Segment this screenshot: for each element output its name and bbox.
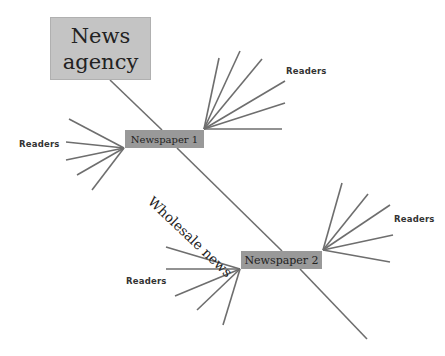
np1-right-reader-line: [204, 81, 285, 129]
newspaper-2-node: Newspaper 2: [241, 251, 322, 269]
news-agency-label-line2: agency: [63, 49, 139, 75]
agency-to-np1-line: [110, 80, 162, 130]
np2-right-reader-line: [323, 250, 390, 262]
news-agency-node: News agency: [50, 17, 151, 80]
newspaper-1-label: Newspaper 1: [131, 134, 198, 145]
readers-label-np2-right: Readers: [394, 214, 435, 224]
newspaper-2-label: Newspaper 2: [244, 254, 318, 267]
news-agency-label-line1: News: [71, 23, 131, 49]
readers-label-np1-left: Readers: [19, 139, 60, 149]
readers-label-np1-right: Readers: [286, 66, 327, 76]
np1-right-reader-line: [204, 59, 262, 129]
newspaper-1-node: Newspaper 1: [125, 130, 204, 148]
np1-right-reader-line: [204, 103, 285, 129]
np1-right-reader-line: [204, 58, 219, 129]
readers-label-np2-left: Readers: [126, 276, 167, 286]
np1-right-reader-line: [204, 51, 240, 129]
np2-tail-line: [300, 269, 367, 339]
